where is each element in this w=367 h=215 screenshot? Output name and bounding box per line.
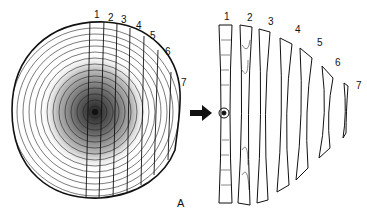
log-cut-label-4: 4	[136, 21, 142, 31]
log-cut-label-3: 3	[121, 15, 127, 25]
log-cut-label-1: 1	[94, 10, 100, 20]
panel-label: A	[177, 198, 184, 209]
board-3	[257, 29, 270, 203]
board-7	[343, 83, 348, 138]
log-cut-label-5: 5	[150, 31, 156, 41]
board-label-3: 3	[268, 17, 274, 27]
log-cut-label-7: 7	[181, 78, 187, 88]
log-cut-label-6: 6	[165, 47, 171, 57]
board-label-5: 5	[317, 38, 323, 48]
board-label-6: 6	[335, 58, 341, 68]
diagram-stage: 1 2 3 4 5 6 7 1 2 3 4 5 6 7 A	[0, 0, 367, 215]
board-4	[277, 38, 292, 192]
board-1	[219, 25, 232, 203]
board-6	[319, 66, 333, 158]
board-label-1: 1	[224, 12, 230, 22]
arrow-right-icon	[190, 105, 212, 121]
sawn-boards	[219, 25, 348, 205]
log-cross-section	[11, 20, 180, 200]
board-label-2: 2	[247, 13, 253, 23]
board-label-4: 4	[295, 25, 301, 35]
board-label-7: 7	[356, 81, 362, 91]
log-cutting-diagram	[0, 0, 367, 215]
board-2	[238, 25, 252, 205]
log-cut-label-2: 2	[108, 13, 114, 23]
board-5	[296, 48, 312, 180]
